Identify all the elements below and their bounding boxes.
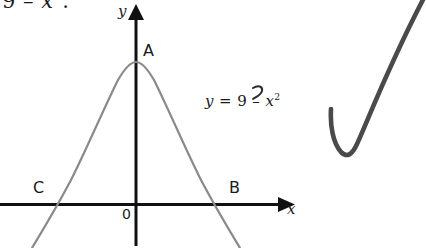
parabola-diagram-page: 9 – x2. y x 0 A C B y = 9 – x2 bbox=[0, 0, 426, 248]
y-axis-arrowhead bbox=[128, 4, 144, 20]
curve-equation-lhs: y bbox=[205, 92, 214, 110]
curve-equation-variable: x bbox=[265, 92, 274, 110]
clipped-expression-trailing: . bbox=[62, 0, 69, 13]
curve-equation-label: y = 9 – x2 bbox=[205, 92, 281, 109]
clipped-expression-lead: 9 – bbox=[2, 0, 41, 13]
origin-label: 0 bbox=[122, 207, 131, 221]
x-axis-label: x bbox=[287, 202, 295, 217]
checkmark-icon bbox=[331, 0, 426, 155]
point-label-b: B bbox=[229, 180, 240, 196]
clipped-expression-variable: x bbox=[41, 0, 53, 13]
point-label-c: C bbox=[33, 180, 44, 196]
clipped-expression-text: 9 – x2. bbox=[2, 0, 70, 12]
curve-equation-operator: = bbox=[214, 92, 237, 110]
curve-equation-lead: 9 – bbox=[237, 92, 265, 110]
curve-equation-exponent: 2 bbox=[274, 91, 280, 102]
point-label-a: A bbox=[143, 43, 154, 59]
y-axis-label: y bbox=[118, 4, 126, 19]
diagram-canvas bbox=[0, 0, 426, 248]
